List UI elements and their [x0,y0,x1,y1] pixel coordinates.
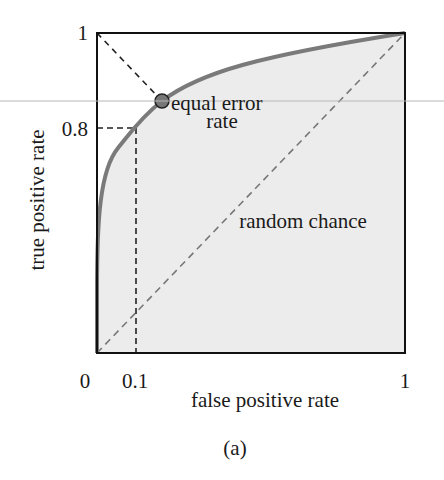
y-tick-1: 1 [78,21,89,45]
x-tick-1: 1 [400,369,411,393]
y-tick-0.8: 0.8 [62,117,88,141]
roc-figure: equal error rate random chance 1 0.8 0 0… [0,0,444,480]
x-tick-0: 0 [80,369,91,393]
figure-caption: (a) [223,436,246,460]
eer-guide-line [97,33,162,101]
eer-label-line2: rate [206,109,237,133]
x-axis-label: false positive rate [191,388,339,412]
y-axis-label: true positive rate [25,129,49,270]
random-chance-label: random chance [239,209,367,233]
x-tick-0.1: 0.1 [122,369,148,393]
